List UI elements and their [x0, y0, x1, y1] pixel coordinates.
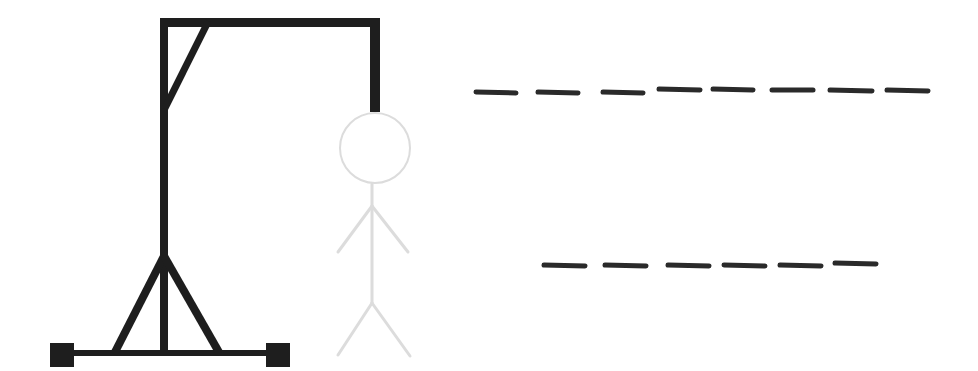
figure-left-leg [338, 303, 372, 355]
figure-head [340, 113, 410, 183]
figure-left-arm [338, 206, 372, 252]
gallows-base-left-block [50, 343, 74, 367]
letter-slot [476, 92, 516, 93]
gallows-right-strut [164, 256, 220, 354]
figure-right-leg [372, 303, 410, 356]
hangman-board [0, 0, 978, 371]
gallows-base-right-block [266, 343, 290, 367]
gallows [50, 18, 380, 367]
letter-slot [780, 265, 821, 266]
gallows-rope [370, 18, 380, 112]
letter-slot [835, 263, 876, 264]
gallows-base-beam [60, 350, 280, 356]
hanged-figure [338, 113, 410, 356]
letter-slot [830, 90, 872, 91]
gallows-post [160, 18, 168, 354]
letter-slot [605, 265, 646, 266]
letter-slot [887, 90, 928, 91]
letter-slot [668, 265, 709, 266]
letter-slot [724, 265, 765, 266]
gallows-corner-brace [166, 24, 207, 106]
gallows-left-strut [114, 256, 164, 354]
gallows-top-beam [160, 18, 380, 27]
figure-right-arm [372, 206, 408, 252]
word-row-1 [476, 89, 928, 93]
letter-slot [659, 89, 700, 90]
letter-slot [544, 265, 585, 266]
word-row-2 [544, 263, 876, 266]
letter-slot [538, 92, 578, 93]
letter-slot [713, 89, 753, 90]
hangman-canvas [0, 0, 978, 371]
letter-slot [603, 92, 643, 93]
